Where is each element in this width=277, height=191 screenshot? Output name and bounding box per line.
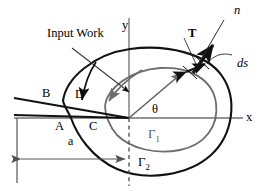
dimension-label-a: a: [68, 135, 73, 147]
dimension-a-group: [17, 118, 125, 183]
gamma2-symbol: Γ: [138, 154, 146, 169]
inner-contour-gamma1: [105, 68, 216, 152]
energy-flow-arrow-gray: [109, 70, 142, 101]
point-label-A: A: [55, 120, 64, 133]
crack-faces-group: [14, 98, 129, 118]
crack-tip-contour-diagram: Input Work y x T n ds B D A C a θ Γ1 Γ2: [0, 0, 277, 191]
gamma2-subscript: 2: [146, 162, 150, 172]
gamma2-label: Γ2: [138, 155, 150, 171]
ds-leader-curve: [207, 54, 232, 64]
traction-leader-line: [184, 38, 196, 64]
normal-vector-n: [193, 20, 224, 73]
point-label-C: C: [89, 120, 97, 133]
y-axis-label: y: [122, 19, 128, 32]
normal-label-n: n: [234, 4, 240, 17]
point-label-D: D: [75, 88, 84, 101]
theta-label: θ: [152, 103, 158, 116]
normal-vector-group: [193, 20, 224, 73]
x-axis-label: x: [246, 111, 252, 124]
traction-label-T: T: [188, 27, 196, 40]
gamma1-subscript: 1: [156, 134, 160, 144]
arc-length-label-ds: ds: [237, 57, 248, 70]
point-label-B: B: [42, 87, 50, 100]
gamma1-symbol: Γ: [148, 126, 156, 141]
gamma1-label: Γ1: [148, 127, 160, 143]
ds-segment-group: [183, 54, 232, 79]
input-work-label: Input Work: [47, 27, 104, 40]
